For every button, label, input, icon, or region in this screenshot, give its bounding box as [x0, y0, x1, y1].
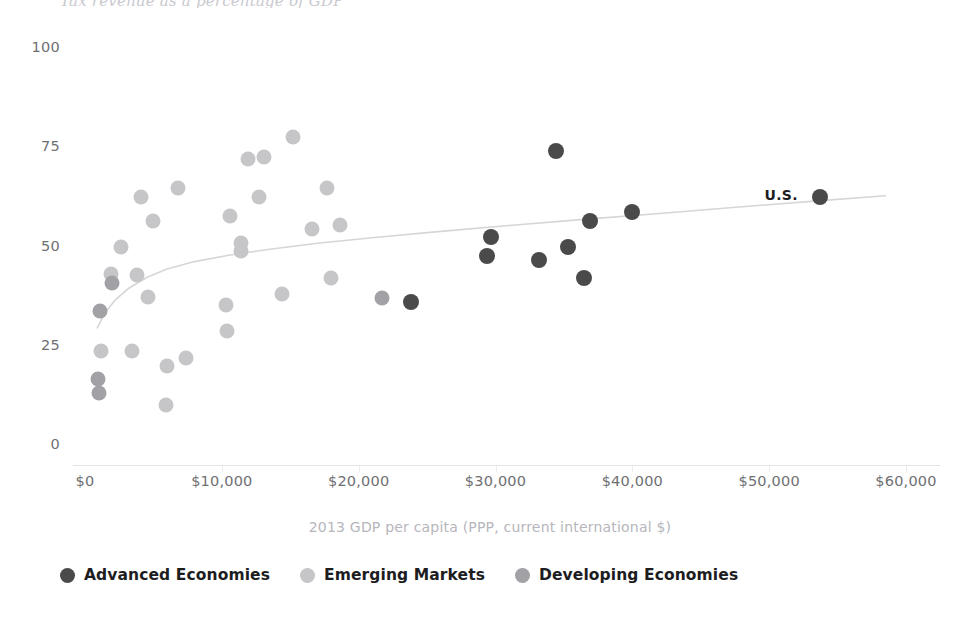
legend-item[interactable]: Emerging Markets: [300, 566, 485, 584]
data-point[interactable]: [171, 180, 186, 195]
x-axis-line: [73, 465, 940, 466]
legend-label: Advanced Economies: [84, 566, 270, 584]
legend-item[interactable]: Advanced Economies: [60, 566, 270, 584]
point-annotation-us: U.S.: [764, 187, 797, 203]
legend-swatch-circle-icon: [300, 568, 315, 583]
data-point[interactable]: [93, 303, 108, 318]
x-tick-mark: [769, 466, 770, 472]
data-point[interactable]: [479, 248, 495, 264]
data-point[interactable]: [113, 240, 128, 255]
data-point[interactable]: [90, 372, 105, 387]
x-tick-label: $10,000: [167, 473, 277, 489]
data-point[interactable]: [374, 291, 389, 306]
legend-label: Developing Economies: [539, 566, 738, 584]
data-point[interactable]: [320, 180, 335, 195]
data-point[interactable]: [134, 189, 149, 204]
data-point[interactable]: [146, 214, 161, 229]
x-tick-label: $60,000: [851, 473, 961, 489]
x-tick-mark: [906, 466, 907, 472]
legend-item[interactable]: Developing Economies: [515, 566, 738, 584]
data-point[interactable]: [305, 221, 320, 236]
data-point[interactable]: [257, 150, 272, 165]
legend-label: Emerging Markets: [324, 566, 485, 584]
y-tick-label: 75: [14, 138, 60, 154]
y-tick-label: 25: [14, 337, 60, 353]
x-tick-mark: [496, 466, 497, 472]
x-tick-label: $30,000: [441, 473, 551, 489]
data-point[interactable]: [251, 189, 266, 204]
data-point[interactable]: [576, 270, 592, 286]
y-tick-label: 100: [14, 39, 60, 55]
data-point[interactable]: [531, 252, 547, 268]
y-tick-label: 0: [14, 436, 60, 452]
chart-figure: Tax revenue as a percentage of GDP 02550…: [0, 0, 980, 634]
x-tick-label: $50,000: [714, 473, 824, 489]
x-tick-mark: [359, 466, 360, 472]
y-tick-label: 50: [14, 238, 60, 254]
data-point[interactable]: [624, 204, 640, 220]
data-point[interactable]: [403, 294, 419, 310]
legend-swatch-circle-icon: [60, 568, 75, 583]
data-point[interactable]: [240, 152, 255, 167]
legend-swatch-circle-icon: [515, 568, 530, 583]
data-point[interactable]: [140, 290, 155, 305]
data-point[interactable]: [124, 343, 139, 358]
data-point[interactable]: [158, 398, 173, 413]
data-point[interactable]: [560, 239, 576, 255]
data-point[interactable]: [275, 287, 290, 302]
data-point[interactable]: [812, 189, 828, 205]
data-point[interactable]: [332, 217, 347, 232]
data-point[interactable]: [483, 229, 499, 245]
x-tick-mark: [632, 466, 633, 472]
data-point[interactable]: [129, 268, 144, 283]
data-point[interactable]: [220, 323, 235, 338]
x-tick-label: $40,000: [577, 473, 687, 489]
data-point[interactable]: [324, 271, 339, 286]
data-point[interactable]: [548, 143, 564, 159]
data-point[interactable]: [223, 208, 238, 223]
data-point[interactable]: [582, 213, 598, 229]
chart-legend: Advanced EconomiesEmerging MarketsDevelo…: [60, 566, 738, 584]
data-point[interactable]: [179, 351, 194, 366]
x-tick-mark: [222, 466, 223, 472]
data-point[interactable]: [105, 276, 120, 291]
plot-area: 0255075100$0$10,000$20,000$30,000$40,000…: [0, 0, 980, 634]
data-point[interactable]: [160, 358, 175, 373]
data-point[interactable]: [233, 236, 248, 251]
x-axis-title: 2013 GDP per capita (PPP, current intern…: [0, 519, 980, 535]
data-point[interactable]: [218, 297, 233, 312]
data-point[interactable]: [94, 343, 109, 358]
x-tick-label: $20,000: [304, 473, 414, 489]
data-point[interactable]: [92, 386, 107, 401]
x-tick-label: $0: [30, 473, 140, 489]
data-point[interactable]: [285, 130, 300, 145]
